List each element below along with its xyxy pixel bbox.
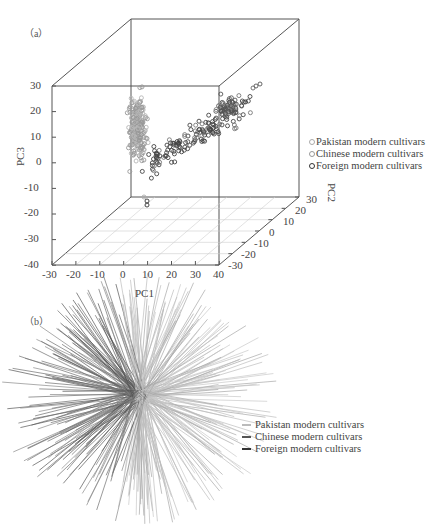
- radial-tree: [3, 274, 277, 524]
- z-tick: -10: [24, 181, 39, 193]
- x-tick: -20: [66, 268, 81, 280]
- z-axis-label: PC3: [14, 147, 26, 166]
- x-tick: -10: [90, 268, 105, 280]
- legend-a: Pakistan modern cultivars Chinese modern…: [309, 136, 425, 172]
- y-tick: -10: [254, 237, 269, 249]
- x-tick: 20: [166, 268, 177, 280]
- circle-marker-icon: [309, 139, 315, 145]
- line-swatch-icon: [242, 448, 251, 450]
- x-axis-label: PC1: [135, 287, 154, 299]
- panel-a-label: （a）: [24, 25, 48, 40]
- legend-item-pakistan: Pakistan modern cultivars: [309, 136, 425, 148]
- line-swatch-icon: [242, 436, 251, 438]
- y-tick: 20: [295, 204, 306, 216]
- legend-item-pakistan: Pakistan modern cultivars: [242, 419, 364, 431]
- legend-item-foreign: Foreign modern cultivars: [309, 160, 425, 172]
- y-tick: 30: [306, 193, 317, 205]
- y-tick: 10: [283, 215, 294, 227]
- scatter-points: [125, 82, 262, 207]
- y-tick: -30: [228, 259, 243, 271]
- legend-b: Pakistan modern cultivars Chinese modern…: [242, 419, 364, 455]
- z-tick: 20: [30, 104, 41, 116]
- y-tick: -20: [241, 248, 256, 260]
- circle-marker-icon: [309, 163, 315, 169]
- x-tick: 0: [120, 268, 126, 280]
- y-tick: 0: [269, 226, 275, 238]
- legend-item-chinese: Chinese modern cultivars: [242, 431, 364, 443]
- y-axis-label: PC2: [326, 183, 338, 202]
- figure-canvas: [0, 0, 436, 528]
- z-tick: -30: [24, 232, 39, 244]
- z-tick: 10: [30, 130, 41, 142]
- x-tick: 30: [190, 268, 201, 280]
- z-tick: 0: [36, 155, 42, 167]
- x-tick: 40: [213, 268, 224, 280]
- panel-b-label: （b）: [24, 313, 49, 328]
- z-tick: -40: [24, 258, 39, 270]
- line-swatch-icon: [242, 424, 251, 426]
- legend-item-foreign: Foreign modern cultivars: [242, 443, 364, 455]
- x-tick: 10: [142, 268, 153, 280]
- circle-marker-icon: [309, 151, 315, 157]
- x-tick: -30: [42, 268, 57, 280]
- legend-item-chinese: Chinese modern cultivars: [309, 148, 425, 160]
- z-tick: -20: [24, 206, 39, 218]
- z-tick: 30: [30, 79, 41, 91]
